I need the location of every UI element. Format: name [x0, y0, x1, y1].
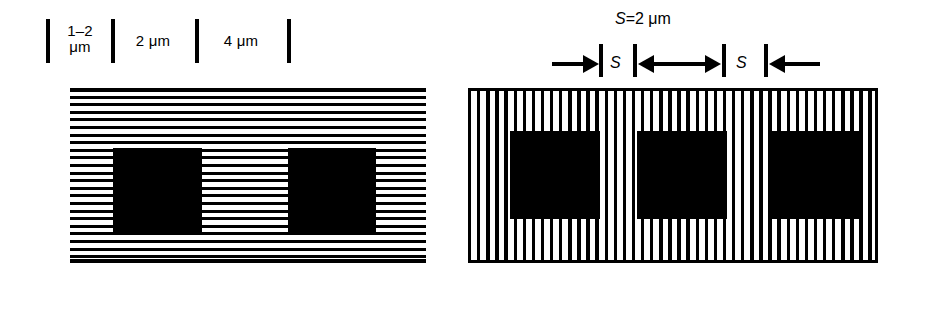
dimension-title-symbol: S: [615, 10, 626, 27]
scale-tick-1: [111, 19, 115, 63]
dimension-tick-1: [633, 44, 637, 77]
dimension-line-left: [552, 62, 584, 66]
dimension-line-mid: [650, 62, 708, 66]
dimension-arrow-mid-right-head: [705, 55, 721, 73]
gap-label-s-left: S: [610, 54, 621, 72]
dimension-tick-2: [722, 44, 726, 77]
scale-label-2um-text: 2 μm: [136, 32, 170, 49]
right-square-1: [510, 131, 600, 219]
dimension-arrow-left-head: [583, 55, 599, 73]
figure-root: 1–2 μm 2 μm 4 μm S=2 μm S: [0, 0, 940, 318]
left-square-1: [113, 148, 202, 233]
scale-label-1-2um: 1–2 μm: [56, 23, 104, 55]
gap-label-s-right: S: [736, 54, 747, 72]
scale-tick-2: [195, 19, 199, 63]
scale-label-1-2um-line2: μm: [56, 39, 104, 55]
left-panel-bottom-rule: [70, 259, 426, 263]
gap-label-s-left-text: S: [610, 54, 621, 71]
dimension-tick-0: [599, 44, 603, 77]
dimension-title: S=2 μm: [615, 10, 671, 28]
left-panel-top-rule: [70, 88, 426, 92]
scale-label-1-2um-line1: 1–2: [56, 23, 104, 39]
scale-label-4um-text: 4 μm: [224, 32, 258, 49]
gap-label-s-right-text: S: [736, 54, 747, 71]
scale-label-2um: 2 μm: [117, 32, 189, 49]
dimension-tick-3: [764, 44, 768, 77]
dimension-title-value: =2 μm: [626, 10, 671, 27]
left-square-2: [288, 148, 376, 233]
scale-tick-0: [46, 19, 50, 63]
dimension-line-right: [783, 62, 820, 66]
scale-label-4um: 4 μm: [202, 32, 280, 49]
right-square-2: [637, 131, 727, 219]
right-square-3: [770, 131, 862, 219]
scale-tick-3: [287, 19, 291, 63]
